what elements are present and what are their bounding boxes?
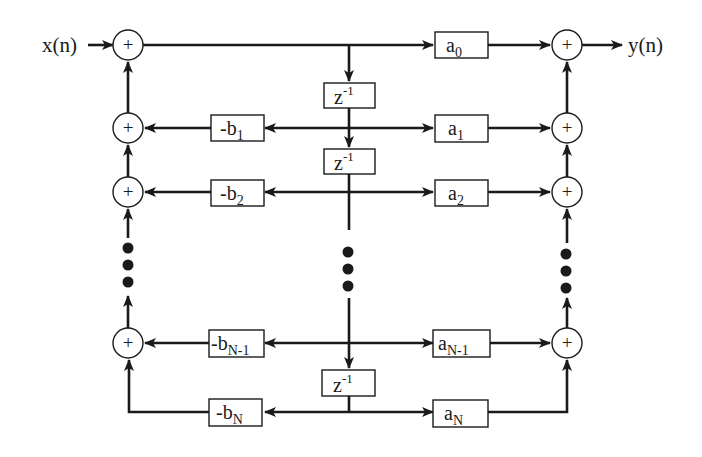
left-adder-n-1: + [113,328,143,358]
delay-block-n: z-1 [322,370,375,396]
left-adder-2: + [113,177,143,207]
right-adder-n-1: + [552,328,582,358]
coeff-neg-b-n: -bN [209,399,262,427]
coeff-neg-b1: -b1 [211,115,264,143]
svg-text:+: + [562,332,573,353]
coeff-a1: a1 [435,115,488,143]
coeff-neg-b2: -b2 [211,180,264,208]
svg-text:+: + [562,34,573,55]
svg-text:+: + [123,34,134,55]
coeff-a2: a2 [435,180,488,208]
right-ellipsis-icon [561,249,572,294]
coeff-a-n: aN [433,400,488,428]
left-adder-1: + [113,113,143,143]
svg-text:+: + [123,117,134,138]
svg-text:+: + [562,181,573,202]
coeff-neg-b-n-1: -bN-1 [209,330,264,358]
left-ellipsis-icon [123,243,134,288]
coeff-a0: a0 [435,32,488,60]
svg-text:+: + [123,181,134,202]
left-adder-0: + [113,30,143,60]
input-label: x(n) [42,33,77,57]
delay-block-2: z-1 [324,149,375,174]
svg-text:+: + [562,117,573,138]
svg-text:+: + [123,332,134,353]
iir-filter-diagram: x(n) z-1 z-1 z-1 [0,0,702,457]
delay-block-1: z-1 [324,83,375,108]
right-adder-0: + [552,30,582,60]
right-adder-1: + [552,113,582,143]
output-label: y(n) [628,33,663,57]
center-ellipsis-icon [343,247,354,292]
right-adder-2: + [552,177,582,207]
coeff-a-n-1: aN-1 [433,330,490,358]
